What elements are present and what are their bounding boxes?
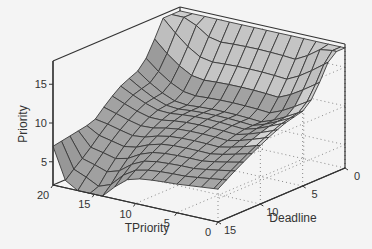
y-tick — [260, 204, 263, 206]
x-tick — [216, 222, 218, 225]
x-axis-title: TPriority — [125, 221, 170, 235]
surface-plot-svg: 5101520151050151050 Priority TPriority D… — [0, 0, 372, 249]
x-tick — [51, 185, 53, 188]
y-tick-label: 5 — [312, 188, 318, 200]
y-tick — [218, 222, 221, 224]
x-tick-label: 15 — [78, 198, 90, 210]
y-tick-label: 0 — [354, 170, 360, 182]
x-tick — [134, 204, 136, 207]
surface-plot: 5101520151050151050 Priority TPriority D… — [0, 0, 372, 249]
z-axis-title: Priority — [16, 105, 30, 142]
y-tick — [345, 168, 348, 170]
z-tick-label: 15 — [35, 78, 47, 90]
x-tick — [175, 213, 177, 216]
z-tick-label: 5 — [41, 156, 47, 168]
x-tick-label: 20 — [37, 189, 49, 201]
y-tick — [303, 186, 306, 188]
x-tick-label: 10 — [119, 208, 131, 220]
x-tick — [92, 194, 94, 197]
y-tick-label: 15 — [224, 224, 236, 236]
x-tick-label: 0 — [205, 226, 211, 238]
z-tick-label: 10 — [35, 117, 47, 129]
y-axis-title: Deadline — [269, 211, 317, 225]
surface-mesh — [53, 11, 345, 196]
